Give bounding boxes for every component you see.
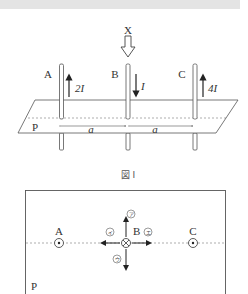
wire-b — [126, 64, 130, 119]
wire-b-lower — [126, 133, 130, 150]
wire-label-a: A — [44, 68, 52, 80]
figure-caption: 図 I — [121, 170, 136, 180]
point-label-b: B — [133, 225, 140, 237]
wire-a-lower — [60, 133, 64, 150]
wire-c — [193, 64, 197, 119]
plane-label: P — [32, 121, 38, 133]
point-label-c: C — [189, 225, 196, 237]
point-label-a: A — [55, 225, 63, 237]
option-i-left: イ — [106, 228, 114, 236]
current-label-c: 4I — [208, 82, 219, 94]
current-label-a: 2I — [75, 82, 86, 94]
dot-icon-a — [58, 242, 60, 244]
dot-icon-c — [192, 242, 194, 244]
diagram-canvas: X P a a A B C 2I I 4I 図 I — [0, 0, 248, 294]
option-u-down: ウ — [113, 255, 121, 263]
plane-label-top-view: P — [31, 280, 37, 292]
option-label-i: イ — [108, 229, 113, 235]
wire-label-c: C — [178, 68, 185, 80]
wire-c-lower — [193, 133, 197, 150]
option-label-e: エ — [146, 229, 151, 235]
view-label-x: X — [124, 24, 132, 36]
option-a-up: ア — [127, 210, 135, 218]
figure-1: X P a a A B C 2I I 4I 図 I — [18, 24, 238, 180]
option-label-a: ア — [129, 211, 134, 218]
wire-label-b: B — [111, 68, 118, 80]
view-direction-arrow-icon — [121, 36, 135, 57]
option-label-u: ウ — [115, 256, 120, 262]
option-e-right: エ — [144, 228, 152, 236]
spacing-label-ab: a — [88, 123, 94, 135]
figure-2: A C B ア イ ウ エ P — [26, 191, 226, 294]
wire-a — [60, 64, 64, 119]
current-label-b: I — [140, 80, 146, 92]
spacing-label-bc: a — [152, 123, 158, 135]
